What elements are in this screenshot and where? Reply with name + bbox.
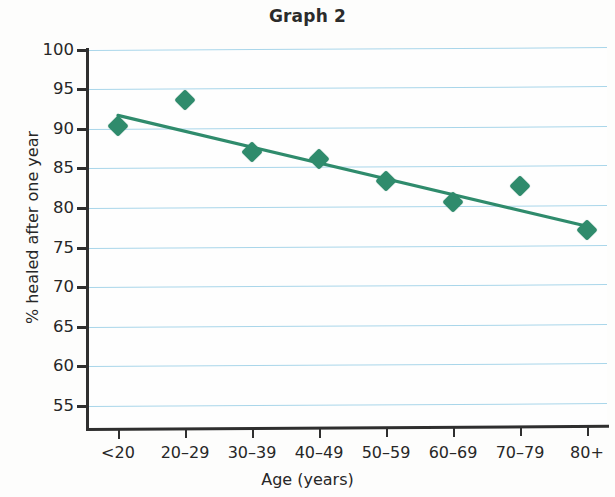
chart-figure: Graph 2 556065707580859095100 <2020–2930… — [0, 0, 615, 497]
x-axis-title: Age (years) — [0, 470, 615, 489]
y-axis-title: % healed after one year — [23, 108, 42, 348]
trendline — [0, 0, 615, 497]
